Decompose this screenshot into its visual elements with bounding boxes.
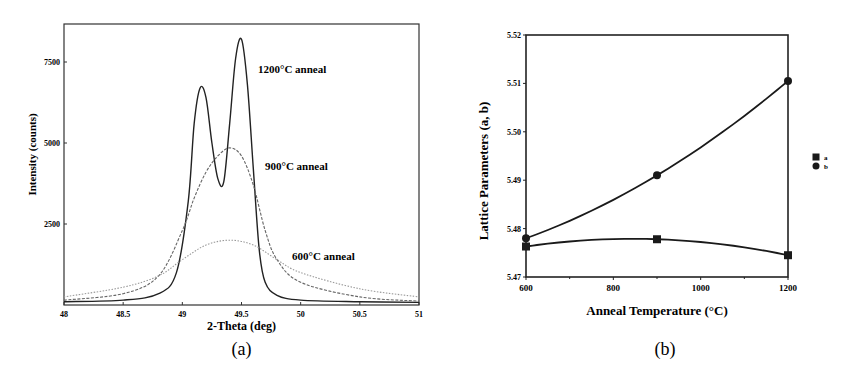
- series-line: [64, 240, 419, 297]
- x-tick-label: 48: [60, 310, 68, 319]
- y-axis-title: Intensity (counts): [26, 113, 39, 196]
- plot-frame: [64, 24, 419, 305]
- y-tick-label: 2500: [44, 220, 60, 229]
- lattice-plot: 5.475.485.495.505.515.5260080010001200ab…: [430, 0, 862, 374]
- x-axis-title: 2-Theta (deg): [207, 319, 276, 333]
- xrd-plot: 2500500075004848.54949.55050.5511200°C a…: [0, 0, 430, 374]
- x-tick-label: 49.5: [235, 310, 249, 319]
- x-tick-label: 600: [519, 283, 533, 293]
- series-annotation: 900°C anneal: [265, 160, 328, 172]
- y-tick-label: 5.50: [507, 128, 521, 137]
- legend-marker-square: [813, 154, 820, 161]
- x-tick-label: 51: [415, 310, 423, 319]
- x-tick-label: 800: [607, 283, 621, 293]
- figure-caption: (b): [655, 339, 676, 360]
- series-annotation: 1200°C anneal: [258, 63, 326, 75]
- y-tick-label: 5.47: [507, 273, 521, 282]
- data-point-circle: [653, 171, 661, 179]
- data-point-square: [522, 243, 530, 251]
- legend-label: b: [824, 163, 828, 171]
- y-axis-title: Lattice Parameters (a, b): [476, 102, 491, 241]
- xrd-intensity-chart: 2500500075004848.54949.55050.5511200°C a…: [0, 0, 430, 374]
- legend-label: a: [824, 154, 828, 162]
- data-point-circle: [784, 77, 792, 85]
- x-axis-title: Anneal Temperature (°C): [586, 303, 727, 318]
- lattice-parameter-chart: 5.475.485.495.505.515.5260080010001200ab…: [430, 0, 862, 374]
- y-tick-label: 5.48: [507, 225, 521, 234]
- legend-marker-circle: [813, 163, 820, 170]
- y-tick-label: 5.51: [507, 79, 521, 88]
- y-tick-label: 5000: [44, 139, 60, 148]
- y-tick-label: 7500: [44, 58, 60, 67]
- data-point-square: [653, 235, 661, 243]
- x-tick-label: 1000: [692, 283, 711, 293]
- data-point-circle: [522, 234, 530, 242]
- series-annotation: 600°C anneal: [292, 250, 355, 262]
- x-tick-label: 50: [297, 310, 305, 319]
- data-point-square: [784, 251, 792, 259]
- y-tick-label: 5.52: [507, 31, 521, 40]
- x-tick-label: 49: [178, 310, 186, 319]
- x-tick-label: 50.5: [353, 310, 367, 319]
- x-tick-label: 48.5: [116, 310, 130, 319]
- series-line: [64, 38, 419, 302]
- series-line: [526, 81, 788, 238]
- figure-caption: (a): [232, 339, 252, 360]
- x-tick-label: 1200: [779, 283, 798, 293]
- y-tick-label: 5.49: [507, 176, 521, 185]
- series-line: [64, 148, 419, 301]
